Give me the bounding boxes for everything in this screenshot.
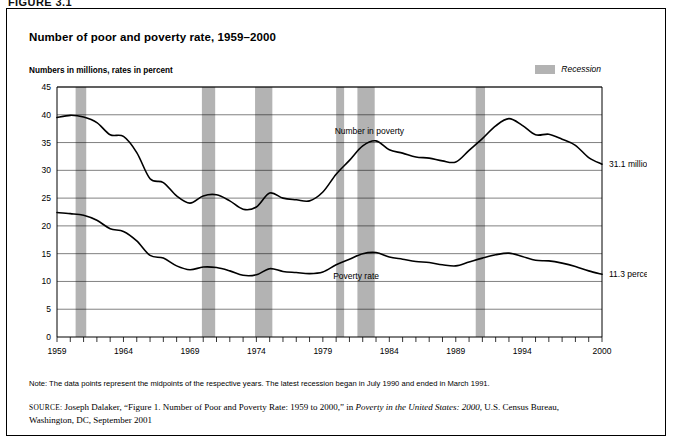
line-chart: 0510152025303540451959196419691974197919… — [27, 79, 647, 369]
figure-source: SOURCE: Joseph Dalaker, “Figure 1. Numbe… — [29, 401, 651, 427]
series-line-number-in-poverty — [57, 115, 602, 209]
recession-band — [202, 87, 215, 337]
x-axis-tick-label: 1994 — [513, 346, 532, 356]
figure-root: FIGURE 3.1 Number of poor and poverty ra… — [0, 0, 676, 444]
source-text-b: U.S. Census Bureau, — [482, 402, 559, 412]
end-label-poverty-rate: 11.3 percent — [609, 269, 647, 279]
x-axis-tick-label: 1974 — [247, 346, 266, 356]
x-axis-tick-label: 1984 — [380, 346, 399, 356]
y-axis-tick-label: 25 — [42, 193, 52, 203]
recession-band — [336, 87, 344, 337]
series-line-poverty-rate — [57, 213, 602, 276]
source-publication: Poverty in the United States: 2000, — [355, 402, 481, 412]
figure-kicker: FIGURE 3.1 — [8, 0, 72, 6]
recession-band — [255, 87, 272, 337]
source-label: SOURCE: — [29, 403, 62, 412]
y-axis-tick-label: 35 — [42, 138, 52, 148]
x-axis-tick-label: 1959 — [48, 346, 67, 356]
source-line2: Washington, DC, September 2001 — [29, 415, 152, 425]
series-label-poverty-rate: Poverty rate — [333, 271, 379, 281]
x-axis-tick-label: 2000 — [593, 346, 612, 356]
y-axis-tick-label: 10 — [42, 276, 52, 286]
x-axis-tick-label: 1969 — [180, 346, 199, 356]
figure-note: Note: The data points represent the midp… — [29, 379, 649, 389]
y-axis-tick-label: 30 — [42, 165, 52, 175]
recession-band — [76, 87, 87, 337]
legend-label-recession: Recession — [561, 64, 601, 74]
y-axis-tick-label: 0 — [46, 332, 51, 342]
recession-swatch-icon — [535, 65, 555, 74]
y-axis-tick-label: 5 — [46, 304, 51, 314]
source-text-a: Joseph Dalaker, “Figure 1. Number of Poo… — [62, 402, 355, 412]
legend: Recession — [535, 64, 601, 74]
chart-plot-area: 0510152025303540451959196419691974197919… — [27, 79, 647, 369]
recession-band — [357, 87, 374, 337]
x-axis-tick-label: 1989 — [446, 346, 465, 356]
recession-band — [476, 87, 485, 337]
page-title: Number of poor and poverty rate, 1959–20… — [29, 31, 276, 43]
y-axis-tick-label: 15 — [42, 249, 52, 259]
x-axis-tick-label: 1964 — [114, 346, 133, 356]
x-axis-tick-label: 1979 — [313, 346, 332, 356]
y-axis-tick-label: 20 — [42, 221, 52, 231]
series-label-number-in-poverty: Number in poverty — [335, 126, 405, 136]
end-label-number-in-poverty: 31.1 million — [609, 159, 647, 169]
y-axis-tick-label: 45 — [42, 82, 52, 92]
y-axis-tick-label: 40 — [42, 110, 52, 120]
figure-frame: Number of poor and poverty rate, 1959–20… — [6, 8, 666, 436]
units-caption: Numbers in millions, rates in percent — [29, 66, 173, 75]
